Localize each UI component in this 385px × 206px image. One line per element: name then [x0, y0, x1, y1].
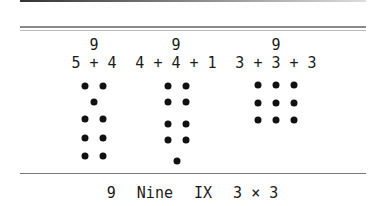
dot	[100, 116, 107, 123]
dot	[183, 83, 190, 90]
column-total: 9	[271, 36, 280, 54]
dot	[255, 117, 262, 124]
dot	[273, 100, 280, 107]
dot	[165, 121, 172, 128]
dot	[82, 116, 89, 123]
dot	[183, 99, 190, 106]
dot	[100, 135, 107, 142]
dot	[183, 121, 190, 128]
column-expression: 4 + 4 + 1	[135, 54, 216, 72]
dot	[165, 99, 172, 106]
column-expression: 5 + 4	[71, 54, 116, 72]
header-double-rule-lower	[20, 30, 366, 31]
dot	[165, 137, 172, 144]
column-total: 9	[171, 36, 180, 54]
dot	[100, 153, 107, 160]
footer-summary: 9 Nine IX 3 × 3	[0, 184, 385, 202]
footer-numeral: 9	[107, 184, 116, 202]
dot	[291, 82, 298, 89]
footer-word: Nine	[137, 184, 173, 202]
top-rule	[20, 0, 366, 2]
dot	[291, 117, 298, 124]
dot	[82, 135, 89, 142]
footer-rule	[20, 173, 366, 174]
dot	[291, 100, 298, 107]
column-expression: 3 + 3 + 3	[235, 54, 316, 72]
dot	[91, 99, 98, 106]
header-double-rule	[20, 26, 366, 28]
dot	[255, 82, 262, 89]
dot	[165, 83, 172, 90]
dot	[82, 153, 89, 160]
dot	[255, 100, 262, 107]
footer-roman: IX	[194, 184, 212, 202]
dot	[183, 137, 190, 144]
footer-product: 3 × 3	[233, 184, 278, 202]
dot	[273, 82, 280, 89]
column-total: 9	[89, 36, 98, 54]
dot	[100, 83, 107, 90]
dot	[273, 117, 280, 124]
dot	[82, 83, 89, 90]
dot	[174, 158, 181, 165]
